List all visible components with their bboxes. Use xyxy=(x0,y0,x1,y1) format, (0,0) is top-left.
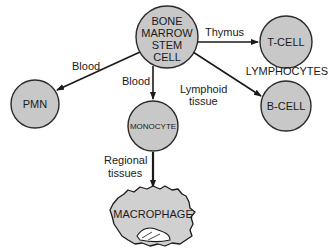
edge-label-lymphoid: Lymphoid xyxy=(180,83,227,95)
lymphocytes-group-label: LYMPHOCYTES xyxy=(246,65,328,77)
edge-label-blood-monocyte: Blood xyxy=(122,75,150,87)
stem-line-3: STEM xyxy=(152,39,183,51)
node-macrophage: MACROPHAGE xyxy=(110,186,195,246)
edge-label-blood-pmn: Blood xyxy=(72,60,100,72)
stem-line-2: MARROW xyxy=(141,27,193,39)
svg-text:MACROPHAGE: MACROPHAGE xyxy=(113,208,192,220)
stem-line-4: CELL xyxy=(153,51,181,63)
svg-text:MONOCYTE: MONOCYTE xyxy=(130,122,176,131)
edge-label-thymus: Thymus xyxy=(205,26,245,38)
edge-label-tissues: tissues xyxy=(108,167,143,179)
node-b-cell: B-CELL xyxy=(261,81,311,131)
node-bone-marrow-stem-cell: BONE MARROW STEM CELL xyxy=(136,6,198,68)
stem-line-1: BONE xyxy=(151,15,182,27)
edge-label-tissue: tissue xyxy=(189,95,218,107)
node-t-cell: T-CELL xyxy=(260,16,312,68)
node-monocyte: MONOCYTE xyxy=(128,101,178,151)
hematopoiesis-diagram: Thymus Blood Blood Lymphoid tissue Regio… xyxy=(0,0,336,251)
node-pmn: PMN xyxy=(11,80,59,128)
edge-label-regional: Regional xyxy=(104,154,147,166)
svg-text:T-CELL: T-CELL xyxy=(267,36,304,48)
svg-text:PMN: PMN xyxy=(23,98,48,110)
svg-text:B-CELL: B-CELL xyxy=(267,100,306,112)
